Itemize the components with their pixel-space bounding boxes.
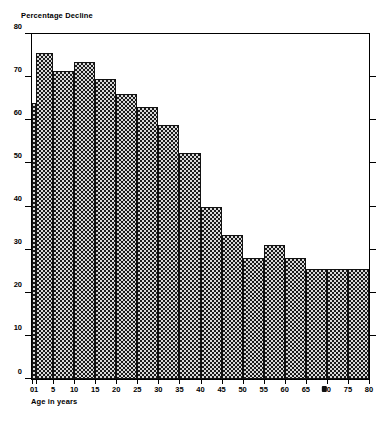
x-axis-label: 80 [365,385,373,394]
y-axis-tick [25,335,32,336]
x-axis-label: 10 [70,385,78,394]
x-axis-label: 25 [133,385,141,394]
x-axis-tick [158,379,159,384]
x-axis-tick [327,379,328,384]
y-axis-label: 60 [14,107,22,116]
y-axis-tick-right [369,206,376,207]
y-axis-tick-right [369,76,376,77]
y-axis-tick [25,378,32,379]
x-axis-label: 40 [196,385,204,394]
x-axis-tick [285,379,286,384]
y-axis-tick-right [369,249,376,250]
x-axis-tick [53,379,54,384]
y-axis-tick [25,162,32,163]
y-axis-tick-right [369,292,376,293]
x-axis-tick [179,379,180,384]
bar [179,153,200,379]
x-axis-tick [137,379,138,384]
chart-figure: Percentage Decline 01020304050607080 015… [0,0,385,422]
x-axis-tick [369,379,370,384]
y-axis-tick [25,33,32,34]
x-axis-tick [74,379,75,384]
bar [243,258,264,379]
bar [285,258,306,379]
x-axis-tick [264,379,265,384]
x-axis-label: 45 [217,385,225,394]
bar [36,53,53,379]
y-axis-tick-right [369,162,376,163]
x-axis-label: 65 [302,385,310,394]
x-axis-tick [222,379,223,384]
x-axis-label: 70 [323,385,331,394]
bar [137,107,158,379]
y-axis-label: 40 [14,194,22,203]
y-axis-tick-right [369,119,376,120]
y-axis-tick [25,292,32,293]
x-axis-label: 5 [51,385,55,394]
bar [201,207,222,380]
y-axis-label: 70 [14,64,22,73]
plot-inner: 01020304050607080 0151015202530354045505… [32,34,369,379]
y-axis-label: 30 [14,237,22,246]
x-axis-tick [201,379,202,384]
y-axis-label: 10 [14,323,22,332]
x-axis-label: 35 [175,385,183,394]
y-axis-title: Percentage Decline [21,11,93,20]
x-axis-label: 1 [34,385,38,394]
bar [348,269,369,379]
x-axis-tick [348,379,349,384]
x-axis-tick [32,379,33,384]
x-axis-tick [243,379,244,384]
x-axis-tick [36,379,37,384]
bar [116,94,137,379]
x-axis-label: 50 [238,385,246,394]
y-axis-tick [25,206,32,207]
y-axis-label: 80 [14,21,22,30]
x-axis-tick [306,379,307,384]
bar [74,62,95,379]
bar [264,245,285,379]
x-axis-title: Age in years [31,397,77,406]
y-axis-tick [25,76,32,77]
plot-area: 01020304050607080 0151015202530354045505… [31,33,370,380]
x-axis-label: 20 [112,385,120,394]
x-axis-label: 60 [281,385,289,394]
x-axis-tick [116,379,117,384]
y-axis-tick-right [369,335,376,336]
y-axis-label: 20 [14,280,22,289]
bar [95,79,116,379]
y-axis-tick [25,119,32,120]
bar [53,71,74,379]
x-axis-label: 30 [154,385,162,394]
x-axis-label: 15 [91,385,99,394]
bar [222,235,243,379]
x-axis-tick [95,379,96,384]
y-axis-tick [25,249,32,250]
x-axis-label: 55 [260,385,268,394]
bar [158,125,179,379]
bar [306,269,327,379]
x-axis-label: 75 [344,385,352,394]
y-axis-label: 0 [18,366,22,375]
bar [327,269,348,379]
y-axis-label: 50 [14,150,22,159]
